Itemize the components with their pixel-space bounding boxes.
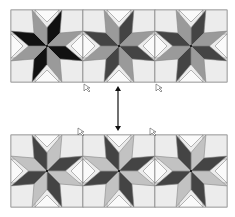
corner-square [11,58,35,82]
corner-square [131,135,155,159]
corner-square [155,183,179,207]
star-block [11,135,83,207]
top-strip [11,10,227,92]
corner-square [83,10,107,34]
corner-square [83,183,107,207]
star-center [118,45,120,47]
star-block [155,135,227,207]
corner-square [203,10,227,34]
corner-square [83,58,107,82]
corner-square [203,135,227,159]
bottom-strip [11,128,227,207]
corner-square [131,183,155,207]
corner-square [59,58,83,82]
corner-square [203,58,227,82]
corner-square [59,135,83,159]
star-block [83,135,155,207]
corner-square [155,10,179,34]
star-block [83,10,155,82]
star-center [190,45,192,47]
corner-square [203,183,227,207]
corner-square [59,183,83,207]
cursor-icon [84,84,90,92]
star-center [46,170,48,172]
corner-square [83,135,107,159]
star-center [118,170,120,172]
corner-square [131,10,155,34]
star-block [11,10,83,82]
corner-square [59,10,83,34]
star-block [155,10,227,82]
corner-square [11,10,35,34]
corner-square [155,135,179,159]
quilt-star-diagram [0,0,235,217]
star-center [46,45,48,47]
cursor-icon [156,84,162,92]
corner-square [131,58,155,82]
corner-square [11,135,35,159]
corner-square [155,58,179,82]
star-center [190,170,192,172]
corner-square [11,183,35,207]
double-arrow-icon [115,86,121,131]
